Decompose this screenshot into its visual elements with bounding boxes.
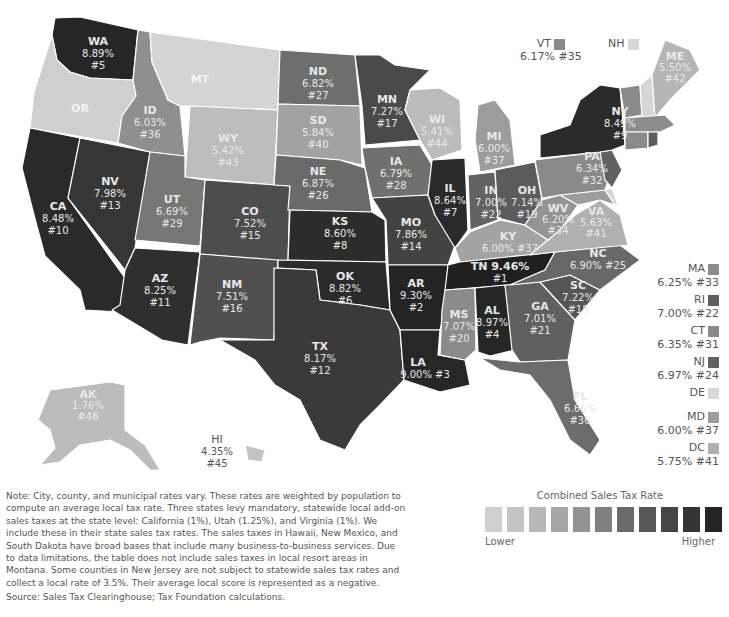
scale-swatch-6: [595, 507, 612, 532]
scale-swatches: [485, 507, 725, 532]
legend-value: 5.75% #41: [609, 455, 719, 469]
state-ct[interactable]: [625, 132, 648, 150]
scale-swatch-8: [639, 507, 656, 532]
legend-item-dc: DC 5.75% #41: [609, 441, 719, 469]
legend-abbr: DE: [690, 386, 705, 399]
legend-value: 6.97% #24: [609, 369, 719, 383]
state-ri[interactable]: [648, 132, 658, 148]
legend-item-ma: MA 6.25% #33: [609, 262, 719, 290]
state-mt[interactable]: [150, 32, 280, 110]
svg-text:MT: MT: [191, 73, 210, 86]
callout-vt: VT 6.17% #35: [520, 37, 582, 63]
source-text: Source: Sales Tax Clearinghouse; Tax Fou…: [6, 591, 406, 603]
state-hi[interactable]: [245, 445, 265, 462]
scale-high-label: Higher: [682, 536, 715, 547]
legend-swatch: [708, 357, 719, 368]
legend-swatch: [708, 326, 719, 337]
callout-nh: NH: [608, 37, 639, 50]
state-ak[interactable]: [38, 382, 160, 470]
scale-swatch-10: [683, 507, 700, 532]
scale-swatch-1: [485, 507, 502, 532]
legend-abbr: MA: [688, 262, 705, 275]
legend-swatch: [708, 443, 719, 454]
legend-value: 6.00% #37: [609, 424, 719, 438]
svg-text:OR: OR: [71, 102, 89, 115]
legend-item-md: MD 6.00% #37: [609, 410, 719, 438]
callout-vt-swatch: [554, 39, 565, 50]
legend-abbr: NJ: [694, 355, 705, 368]
legend-item-ct: CT 6.35% #31: [609, 324, 719, 352]
legend-item-nj: NJ 6.97% #24: [609, 355, 719, 383]
callout-nh-swatch: [628, 39, 639, 50]
scale-low-label: Lower: [485, 536, 515, 547]
legend-swatch: [708, 388, 719, 399]
legend-item-de: DE: [609, 386, 719, 400]
scale-swatch-5: [573, 507, 590, 532]
legend-abbr: CT: [691, 324, 705, 337]
scale-swatch-7: [617, 507, 634, 532]
footnote: Note: City, county, and municipal rates …: [6, 490, 406, 604]
legend-value: 6.25% #33: [609, 276, 719, 290]
scale-title: Combined Sales Tax Rate: [475, 490, 725, 501]
legend-item-ri: RI 7.00% #22: [609, 293, 719, 321]
scale-swatch-2: [507, 507, 524, 532]
small-states-legend: MA 6.25% #33 RI 7.00% #22 CT 6.35% #31 N…: [609, 262, 719, 472]
note-text: Note: City, county, and municipal rates …: [6, 490, 406, 589]
legend-abbr: DC: [689, 441, 705, 454]
callout-vt-value: 6.17% #35: [520, 50, 582, 63]
scale-swatch-3: [529, 507, 546, 532]
svg-text:HI4.35%#45: HI4.35%#45: [201, 433, 233, 469]
legend-value: 6.35% #31: [609, 338, 719, 352]
callout-vt-abbr: VT: [537, 37, 551, 50]
legend-swatch: [708, 412, 719, 423]
scale-swatch-4: [551, 507, 568, 532]
color-scale-legend: Combined Sales Tax Rate Lower Higher: [485, 490, 725, 547]
callout-nh-abbr: NH: [608, 37, 625, 50]
scale-swatch-11: [705, 507, 722, 532]
legend-abbr: RI: [694, 293, 705, 306]
legend-abbr: MD: [687, 410, 705, 423]
legend-value: 7.00% #22: [609, 307, 719, 321]
legend-swatch: [708, 264, 719, 275]
legend-swatch: [708, 295, 719, 306]
scale-end-labels: Lower Higher: [485, 536, 715, 547]
scale-swatch-9: [661, 507, 678, 532]
